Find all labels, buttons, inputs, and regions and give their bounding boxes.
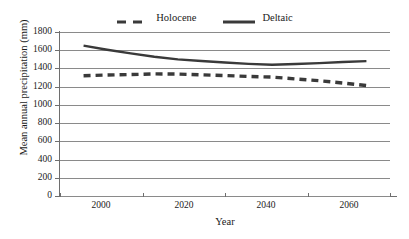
x-tick-label: 2040 (241, 200, 291, 210)
legend-entry-deltaic[interactable]: Deltaic (222, 13, 292, 23)
x-tick-label: 2000 (76, 200, 126, 210)
chart-legend: Holocene Deltaic (0, 8, 409, 28)
x-tick-mark (390, 193, 391, 197)
x-tick-label: 2020 (159, 200, 209, 210)
y-axis-title: Mean annual precipitation (mm) (18, 13, 29, 163)
legend-entry-holocene[interactable]: Holocene (116, 13, 196, 23)
x-axis-title: Year (60, 216, 390, 227)
series-line-deltaic (84, 46, 367, 65)
legend-swatch-solid-icon (222, 13, 256, 23)
y-tick-label: 0 (18, 191, 52, 200)
legend-swatch-dashed-icon (116, 13, 150, 23)
series-plot (60, 32, 390, 196)
legend-label-deltaic: Deltaic (262, 13, 292, 23)
y-tick-label: 200 (18, 173, 52, 182)
chart-container: Holocene Deltaic 18001600140012001000800… (0, 0, 409, 239)
legend-label-holocene: Holocene (156, 13, 196, 23)
x-tick-label: 2060 (324, 200, 374, 210)
series-line-holocene (84, 74, 367, 86)
